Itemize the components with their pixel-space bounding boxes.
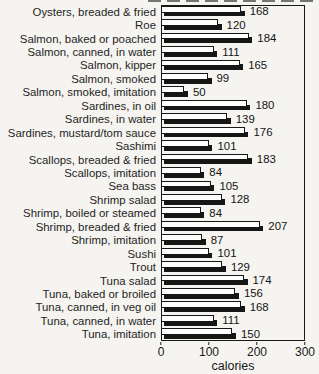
bar-row: Salmon, baked or poached184 bbox=[0, 32, 319, 45]
value-label: 111 bbox=[222, 45, 239, 58]
value-label: 101 bbox=[217, 246, 236, 259]
bar bbox=[161, 207, 201, 214]
value-label: 84 bbox=[209, 206, 222, 219]
bar bbox=[161, 19, 218, 26]
value-label: 129 bbox=[231, 260, 250, 273]
category-label: Sardines, in oil bbox=[0, 100, 156, 112]
category-label: Tuna, imitation bbox=[0, 328, 156, 340]
bar bbox=[161, 33, 249, 40]
bar-row: Sashimi101 bbox=[0, 139, 319, 152]
category-label: Shrimp, boiled or steamed bbox=[0, 207, 156, 219]
bar-area: 101 bbox=[161, 247, 319, 260]
bar-area: 111 bbox=[161, 314, 319, 327]
value-label: 101 bbox=[217, 139, 236, 152]
value-label: 165 bbox=[248, 58, 267, 71]
value-label: 207 bbox=[268, 220, 287, 233]
bar-area: 183 bbox=[161, 153, 319, 166]
bar-area: 139 bbox=[161, 113, 319, 126]
bar bbox=[161, 154, 248, 161]
bar bbox=[161, 86, 184, 93]
category-label: Oysters, breaded & fried bbox=[0, 6, 156, 18]
bar-area: 180 bbox=[161, 99, 319, 112]
value-label: 176 bbox=[253, 125, 272, 138]
value-label: 156 bbox=[244, 287, 263, 300]
bar-area: 150 bbox=[161, 328, 319, 341]
bar bbox=[161, 275, 244, 282]
bar-row: Tuna, canned, in veg oil168 bbox=[0, 301, 319, 314]
value-label: 168 bbox=[250, 300, 269, 313]
bar bbox=[161, 194, 222, 201]
bar-row: Roe120 bbox=[0, 18, 319, 31]
value-label: 180 bbox=[255, 99, 274, 112]
bar bbox=[161, 315, 214, 322]
bar bbox=[161, 113, 227, 120]
bar-area: 84 bbox=[161, 207, 319, 220]
bar-area: 84 bbox=[161, 166, 319, 179]
category-label: Roe bbox=[0, 19, 156, 31]
category-label: Scallops, breaded & fried bbox=[0, 154, 156, 166]
value-label: 174 bbox=[253, 273, 272, 286]
value-label: 111 bbox=[222, 314, 239, 327]
x-axis-title: calories bbox=[161, 359, 305, 373]
category-label: Trout bbox=[0, 261, 156, 273]
bar-area: 128 bbox=[161, 193, 319, 206]
category-label: Salmon, canned, in water bbox=[0, 46, 156, 58]
category-label: Sea bass bbox=[0, 180, 156, 192]
bar-area: 176 bbox=[161, 126, 319, 139]
value-label: 99 bbox=[217, 72, 230, 85]
x-axis: 0100200300 calories bbox=[161, 341, 305, 374]
bar-area: 111 bbox=[161, 45, 319, 58]
bar bbox=[161, 288, 235, 295]
category-label: Salmon, baked or poached bbox=[0, 33, 156, 45]
bar bbox=[161, 100, 247, 107]
bar-row: Salmon, canned, in water111 bbox=[0, 45, 319, 58]
bar-row: Sushi101 bbox=[0, 247, 319, 260]
bar-row: Sardines, in water139 bbox=[0, 113, 319, 126]
value-label: 120 bbox=[227, 18, 246, 31]
bar bbox=[161, 167, 201, 174]
bar bbox=[161, 46, 214, 53]
value-label: 184 bbox=[257, 31, 276, 44]
bar bbox=[161, 127, 245, 134]
bar-area: 156 bbox=[161, 287, 319, 300]
bar bbox=[161, 248, 209, 255]
bar-row: Shrimp, imitation87 bbox=[0, 233, 319, 246]
bar bbox=[161, 181, 211, 188]
value-label: 168 bbox=[250, 5, 269, 18]
bar-row: Shrimp, boiled or steamed84 bbox=[0, 207, 319, 220]
bar-area: 99 bbox=[161, 72, 319, 85]
category-label: Shrimp salad bbox=[0, 194, 156, 206]
value-label: 105 bbox=[219, 179, 238, 192]
bar-row: Tuna salad174 bbox=[0, 274, 319, 287]
category-label: Scallops, imitation bbox=[0, 167, 156, 179]
bar-row: Salmon, smoked99 bbox=[0, 72, 319, 85]
bar bbox=[161, 301, 241, 308]
category-label: Salmon, kipper bbox=[0, 59, 156, 71]
bar-area: 174 bbox=[161, 274, 319, 287]
value-label: 84 bbox=[209, 166, 222, 179]
bar bbox=[161, 221, 260, 228]
bar-row: Tuna, imitation150 bbox=[0, 328, 319, 341]
bar-row: Sardines, in oil180 bbox=[0, 99, 319, 112]
bar-row: Sea bass105 bbox=[0, 180, 319, 193]
bar bbox=[161, 73, 208, 80]
calorie-bar-chart: Oysters, breaded & fried168Roe120Salmon,… bbox=[0, 0, 319, 374]
bar bbox=[161, 60, 240, 67]
bar-row: Shrimp salad128 bbox=[0, 193, 319, 206]
bar-area: 50 bbox=[161, 86, 319, 99]
bar-area: 168 bbox=[161, 5, 319, 18]
category-label: Shrimp, imitation bbox=[0, 234, 156, 246]
x-tick-label: 0 bbox=[158, 345, 165, 359]
value-label: 87 bbox=[211, 233, 224, 246]
bar-row: Shrimp, breaded & fried207 bbox=[0, 220, 319, 233]
bar-area: 129 bbox=[161, 260, 319, 273]
bar bbox=[161, 140, 209, 147]
cropped-text-artifact bbox=[148, 0, 319, 2]
x-tick-label: 300 bbox=[295, 345, 315, 359]
category-label: Sardines, in water bbox=[0, 113, 156, 125]
bar-area: 101 bbox=[161, 139, 319, 152]
bar bbox=[161, 328, 232, 335]
bar-area: 207 bbox=[161, 220, 319, 233]
category-label: Tuna, canned, in water bbox=[0, 315, 156, 327]
bar-row: Scallops, breaded & fried183 bbox=[0, 153, 319, 166]
